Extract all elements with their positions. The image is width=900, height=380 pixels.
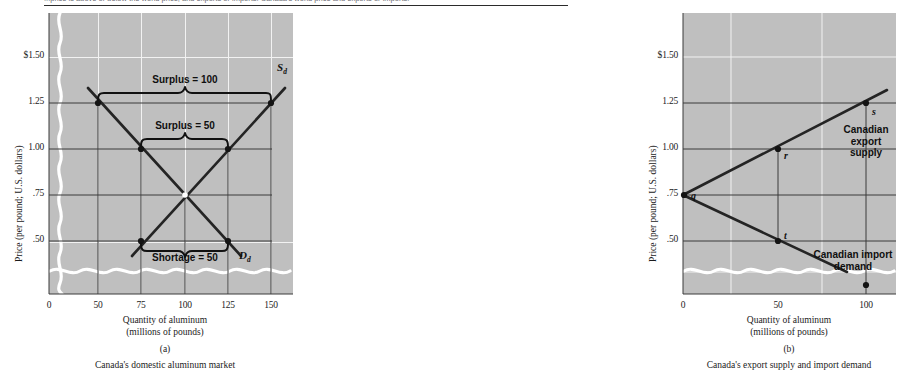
panel-a-bracket-surplus-50: [141, 133, 228, 146]
panel-b-point-q: [681, 192, 687, 198]
export-supply-line2: export: [828, 136, 900, 148]
panel-b-xtick-50: 50: [764, 300, 792, 310]
panel-a-xtick-125: 125: [212, 300, 244, 310]
panel-b-annotation-import-demand: Canadian import demand: [800, 249, 900, 272]
export-supply-line1: Canadian: [828, 124, 900, 136]
panel-a-x-axis-title-line2: (millions of pounds): [45, 326, 285, 338]
panel-b-x-axis-title-line1: Quantity of aluminum: [669, 314, 900, 326]
panel-b: q r s t Canadian export supply Canadian …: [303, 0, 606, 380]
panel-b-caption: Canada's export supply and import demand: [649, 360, 900, 370]
panel-b-annotation-export-supply: Canadian export supply: [828, 124, 900, 159]
panel-a-xtick-0: 0: [35, 300, 63, 310]
panel-a-ytick-150: $1.50: [0, 50, 44, 60]
panel-a-letter: (a): [25, 344, 305, 354]
export-supply-line3: supply: [828, 147, 900, 159]
panel-b-point-axis-100: [863, 282, 869, 288]
panel-a-xtick-150: 150: [255, 300, 287, 310]
panel-b-letter: (b): [649, 344, 900, 354]
import-demand-line1: Canadian import: [800, 249, 900, 261]
demand-curve-label-dd: Dd: [239, 249, 251, 264]
panel-b-ytick-125: 1.25: [633, 96, 678, 106]
panel-a-label-surplus-100: Surplus = 100: [110, 74, 260, 85]
panel-b-label-t: t: [784, 230, 787, 241]
panel-b-ytick-150: $1.50: [633, 50, 678, 60]
panel-b-xtick-0: 0: [669, 300, 697, 310]
panel-b-label-q: q: [691, 190, 696, 201]
panel-a-xtick-50: 50: [84, 300, 112, 310]
panel-a-xtick-100: 100: [169, 300, 201, 310]
supply-curve-label-sd: Sd: [277, 61, 287, 76]
panel-b-point-r: [775, 146, 781, 152]
panel-a: Surplus = 100 Surplus = 50 Shortage = 50…: [0, 0, 303, 380]
import-demand-line2: demand: [800, 261, 900, 273]
panel-a-ytick-125: 1.25: [0, 96, 44, 106]
panel-a-x-axis-title-line1: Quantity of aluminum: [45, 314, 285, 326]
panel-a-label-shortage-50: Shortage = 50: [128, 252, 242, 263]
panel-a-label-surplus-50: Surplus = 50: [130, 120, 240, 131]
panel-a-y-axis-title: Price (per pound; U.S. dollars): [14, 145, 24, 262]
panel-b-label-s: s: [872, 106, 876, 117]
panel-a-bracket-surplus-100: [98, 87, 271, 100]
panel-b-y-axis-title: Price (per pound; U.S. dollars): [648, 145, 658, 262]
panel-b-point-t: [775, 238, 781, 244]
panel-a-caption: Canada's domestic aluminum market: [25, 360, 305, 370]
panel-b-point-s: [863, 100, 869, 106]
panel-a-xtick-75: 75: [127, 300, 155, 310]
panel-b-x-axis-title-line2: (millions of pounds): [669, 326, 900, 338]
panel-b-xtick-100: 100: [850, 300, 882, 310]
panel-b-label-r: r: [784, 150, 788, 161]
